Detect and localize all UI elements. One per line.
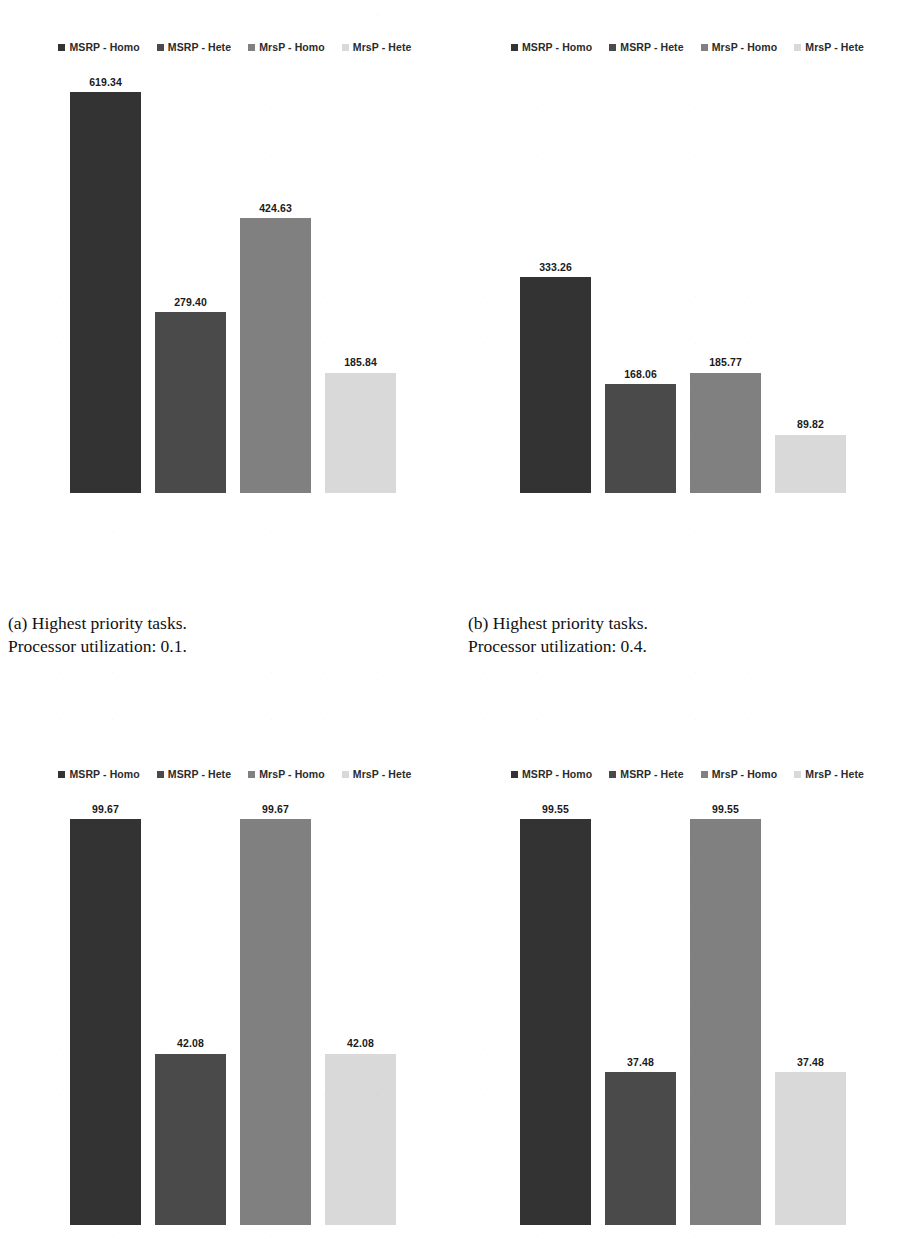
legend-swatch-mrsp-hete (342, 771, 349, 778)
bar-msrp-homo (70, 819, 141, 1225)
bar-msrp-homo (520, 277, 591, 493)
legend-chart-a: MSRP - Homo MSRP - Hete MrsP - Homo MrsP… (40, 40, 430, 54)
caption-a: (a) Highest priority tasks. Processor ut… (8, 612, 438, 659)
legend-swatch-mrsp-hete (794, 771, 801, 778)
bar-mrsp-hete (775, 1072, 846, 1225)
legend-swatch-mrsp-hete (794, 44, 801, 51)
bar-group: 99.55 (683, 802, 768, 1225)
bar-msrp-hete (605, 1072, 676, 1225)
legend-label-mrsp-homo: MrsP - Homo (712, 42, 778, 53)
legend-swatch-msrp-hete (157, 44, 164, 51)
bar-msrp-homo (70, 92, 141, 493)
bar-group: 99.55 (513, 802, 598, 1225)
legend-item-msrp-homo: MSRP - Homo (511, 42, 592, 53)
legend-item-msrp-hete: MSRP - Hete (609, 769, 683, 780)
legend-chart-d: MSRP - Homo MSRP - Hete MrsP - Homo MrsP… (495, 767, 880, 781)
bar-value-label: 89.82 (797, 419, 824, 430)
bar-group: 333.26 (513, 75, 598, 493)
bar-value-label: 185.77 (709, 357, 742, 368)
legend-swatch-msrp-hete (157, 771, 164, 778)
bar-value-label: 42.08 (347, 1038, 374, 1049)
legend-item-msrp-hete: MSRP - Hete (157, 42, 231, 53)
legend-swatch-mrsp-homo (701, 44, 708, 51)
figure-panel-b: MSRP - Homo MSRP - Hete MrsP - Homo MrsP… (460, 0, 907, 600)
figure-panel-a: MSRP - Homo MSRP - Hete MrsP - Homo MrsP… (0, 0, 460, 600)
bar-plot-chart-b: 333.26168.06185.7789.82 (513, 75, 853, 493)
legend-item-msrp-hete: MSRP - Hete (157, 769, 231, 780)
legend-item-mrsp-hete: MrsP - Hete (794, 42, 864, 53)
bar-group: 42.08 (148, 802, 233, 1225)
bar-msrp-homo (520, 819, 591, 1225)
bar-group: 37.48 (598, 802, 683, 1225)
bar-group: 89.82 (768, 75, 853, 493)
bar-value-label: 99.67 (92, 804, 119, 815)
bar-msrp-hete (605, 384, 676, 493)
bar-group: 99.67 (233, 802, 318, 1225)
legend-item-msrp-homo: MSRP - Homo (511, 769, 592, 780)
figure-panel-d: MSRP - Homo MSRP - Hete MrsP - Homo MrsP… (460, 740, 907, 1239)
legend-swatch-mrsp-homo (248, 771, 255, 778)
caption-b: (b) Highest priority tasks. Processor ut… (468, 612, 898, 659)
legend-item-mrsp-homo: MrsP - Homo (248, 769, 325, 780)
bar-value-label: 99.55 (712, 804, 739, 815)
legend-label-msrp-hete: MSRP - Hete (168, 769, 231, 780)
bar-value-label: 185.84 (344, 357, 377, 368)
bar-msrp-hete (155, 1054, 226, 1225)
legend-swatch-mrsp-homo (248, 44, 255, 51)
bar-group: 185.77 (683, 75, 768, 493)
bar-mrsp-homo (690, 819, 761, 1225)
bar-group: 37.48 (768, 802, 853, 1225)
bar-mrsp-homo (240, 819, 311, 1225)
bar-plot-chart-d: 99.5537.4899.5537.48 (513, 802, 853, 1225)
legend-label-msrp-homo: MSRP - Homo (69, 769, 139, 780)
legend-label-mrsp-hete: MrsP - Hete (353, 769, 412, 780)
bar-value-label: 619.34 (89, 77, 122, 88)
bar-group: 168.06 (598, 75, 683, 493)
bar-group: 42.08 (318, 802, 403, 1225)
figure-panel-c: MSRP - Homo MSRP - Hete MrsP - Homo MrsP… (0, 740, 460, 1239)
legend-item-mrsp-homo: MrsP - Homo (701, 769, 778, 780)
bar-mrsp-homo (690, 373, 761, 493)
legend-label-mrsp-homo: MrsP - Homo (712, 769, 778, 780)
legend-swatch-msrp-hete (609, 44, 616, 51)
bar-value-label: 42.08 (177, 1038, 204, 1049)
legend-chart-b: MSRP - Homo MSRP - Hete MrsP - Homo MrsP… (495, 40, 880, 54)
legend-label-msrp-hete: MSRP - Hete (620, 42, 683, 53)
legend-item-msrp-homo: MSRP - Homo (58, 769, 139, 780)
bar-mrsp-homo (240, 218, 311, 493)
legend-item-mrsp-hete: MrsP - Hete (794, 769, 864, 780)
bar-msrp-hete (155, 312, 226, 493)
bar-mrsp-hete (775, 435, 846, 493)
legend-swatch-mrsp-homo (701, 771, 708, 778)
bar-group: 99.67 (63, 802, 148, 1225)
legend-swatch-msrp-homo (58, 44, 65, 51)
legend-item-mrsp-homo: MrsP - Homo (701, 42, 778, 53)
legend-item-msrp-hete: MSRP - Hete (609, 42, 683, 53)
bar-group: 185.84 (318, 75, 403, 493)
legend-label-mrsp-hete: MrsP - Hete (805, 42, 864, 53)
legend-swatch-msrp-homo (511, 44, 518, 51)
legend-label-msrp-homo: MSRP - Homo (69, 42, 139, 53)
legend-label-msrp-hete: MSRP - Hete (168, 42, 231, 53)
legend-label-mrsp-homo: MrsP - Homo (259, 42, 325, 53)
bar-group: 619.34 (63, 75, 148, 493)
legend-item-mrsp-homo: MrsP - Homo (248, 42, 325, 53)
legend-label-msrp-homo: MSRP - Homo (522, 42, 592, 53)
bar-value-label: 424.63 (259, 203, 292, 214)
bar-value-label: 279.40 (174, 297, 207, 308)
legend-chart-c: MSRP - Homo MSRP - Hete MrsP - Homo MrsP… (40, 767, 430, 781)
bar-mrsp-hete (325, 373, 396, 493)
bar-value-label: 37.48 (627, 1057, 654, 1068)
legend-label-msrp-hete: MSRP - Hete (620, 769, 683, 780)
legend-swatch-mrsp-hete (342, 44, 349, 51)
bar-value-label: 37.48 (797, 1057, 824, 1068)
bar-value-label: 99.55 (542, 804, 569, 815)
legend-label-mrsp-hete: MrsP - Hete (805, 769, 864, 780)
legend-item-mrsp-hete: MrsP - Hete (342, 769, 412, 780)
legend-label-mrsp-hete: MrsP - Hete (353, 42, 412, 53)
legend-swatch-msrp-hete (609, 771, 616, 778)
bar-value-label: 333.26 (539, 262, 572, 273)
legend-item-msrp-homo: MSRP - Homo (58, 42, 139, 53)
bar-group: 424.63 (233, 75, 318, 493)
bar-group: 279.40 (148, 75, 233, 493)
